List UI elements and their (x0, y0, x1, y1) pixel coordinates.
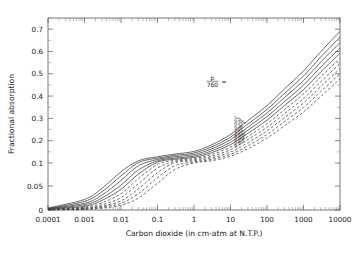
absorption-curve (48, 37, 340, 208)
x-tick-label: 0.1 (152, 215, 163, 224)
y-tick-label: 0 (38, 206, 43, 215)
x-tick-label: 0.001 (74, 215, 95, 224)
y-tick-label: 0.6 (32, 47, 44, 56)
absorption-chart-figure: 0.00010.0010.010.111010010001000000.050.… (0, 0, 357, 259)
x-tick-label: 0.01 (113, 215, 129, 224)
y-tick-label: 0.5 (32, 69, 43, 78)
absorption-curve (48, 53, 340, 209)
x-tick-label: 1 (192, 215, 197, 224)
annotation-equals: = (221, 78, 226, 85)
x-tick-label: 0.0001 (35, 215, 60, 224)
y-tick-label: 0.2 (32, 136, 43, 145)
absorption-curve (48, 48, 340, 209)
absorption-curve (48, 69, 340, 210)
x-axis-title: Carbon dioxide (in cm-atm at N.T.P.) (126, 229, 263, 238)
x-tick-label: 10000 (329, 215, 352, 224)
annotation-denominator: 760 (207, 81, 219, 88)
y-tick-label: 0.7 (32, 25, 43, 34)
x-tick-label: 10 (226, 215, 236, 224)
y-tick-label: 0.1 (32, 159, 43, 168)
y-tick-label: 0.4 (32, 92, 44, 101)
absorption-curve (48, 79, 340, 210)
y-axis-title: Fractional absorption (7, 74, 16, 154)
absorption-curve (48, 64, 340, 210)
absorption-curve (48, 43, 340, 209)
absorption-curve (48, 31, 340, 208)
absorption-curve (48, 58, 340, 209)
chart-svg: 0.00010.0010.010.111010010001000000.050.… (0, 0, 357, 259)
absorption-curve (48, 74, 340, 210)
x-tick-label: 1000 (294, 215, 313, 224)
y-tick-label: 0.3 (32, 114, 43, 123)
x-tick-label: 100 (260, 215, 274, 224)
plot-frame (48, 18, 340, 210)
y-tick-label: 0.05 (27, 182, 43, 191)
